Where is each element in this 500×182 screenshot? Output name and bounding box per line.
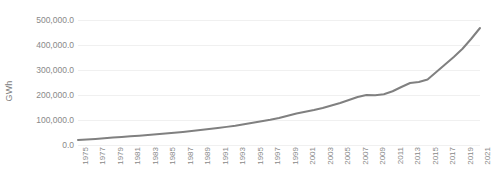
x-tick-label: 2015 xyxy=(431,147,440,165)
x-tick-label: 1979 xyxy=(116,147,125,165)
x-tick-label: 2021 xyxy=(483,147,492,165)
x-tick-label: 1999 xyxy=(291,147,300,165)
x-tick-label: 2019 xyxy=(466,147,475,165)
series-line-gwh xyxy=(78,20,480,145)
line-chart: GWh 0.0100,000.0200,000.0300,000.0400,00… xyxy=(0,0,500,182)
x-tick-label: 1995 xyxy=(256,147,265,165)
x-tick-label: 1977 xyxy=(98,147,107,165)
x-tick-label: 1985 xyxy=(168,147,177,165)
y-axis-title: GWh xyxy=(0,0,18,182)
y-tick-label: 300,000.0 xyxy=(36,65,74,75)
x-tick-label: 2009 xyxy=(378,147,387,165)
y-tick-label: 400,000.0 xyxy=(36,40,74,50)
x-tick-label: 1983 xyxy=(151,147,160,165)
x-tick-label: 1981 xyxy=(133,147,142,165)
x-tick-label: 2007 xyxy=(361,147,370,165)
x-tick-label: 2013 xyxy=(413,147,422,165)
plot-area xyxy=(78,20,480,145)
x-tick-label: 2011 xyxy=(396,147,405,164)
x-tick-label: 2003 xyxy=(326,147,335,165)
y-tick-label: 500,000.0 xyxy=(36,15,74,25)
y-axis-tick-labels: 0.0100,000.0200,000.0300,000.0400,000.05… xyxy=(22,0,76,182)
x-tick-label: 1989 xyxy=(203,147,212,165)
x-tick-label: 1997 xyxy=(273,147,282,165)
x-axis-tick-labels: 1975197719791981198319851987198919911993… xyxy=(78,147,480,182)
y-tick-label: 200,000.0 xyxy=(36,90,74,100)
x-tick-label: 2001 xyxy=(308,147,317,165)
y-tick-label: 0.0 xyxy=(62,140,74,150)
y-tick-label: 100,000.0 xyxy=(36,115,74,125)
x-tick-label: 2017 xyxy=(448,147,457,165)
x-tick-label: 2005 xyxy=(343,147,352,165)
x-tick-label: 1987 xyxy=(186,147,195,165)
x-tick-label: 1993 xyxy=(238,147,247,165)
x-tick-label: 1991 xyxy=(221,147,230,165)
x-tick-label: 1975 xyxy=(81,147,90,165)
series-line xyxy=(78,28,480,140)
